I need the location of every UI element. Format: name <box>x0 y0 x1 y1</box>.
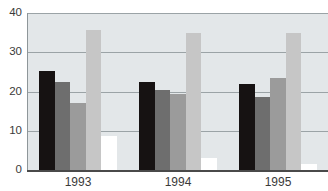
bar-1994-series-1 <box>139 82 155 170</box>
bar-1994-series-5 <box>201 158 217 170</box>
x-tick-label-1993: 1993 <box>28 175 128 189</box>
x-tick-label-1994: 1994 <box>128 175 228 189</box>
bar-1993-series-5 <box>101 136 117 170</box>
bar-series-container <box>28 13 328 170</box>
bar-1995-series-1 <box>239 84 255 170</box>
bar-1994-series-3 <box>170 94 186 170</box>
x-axis-line <box>27 170 328 172</box>
plot-area <box>28 13 328 170</box>
bar-1995-series-4 <box>286 33 302 170</box>
bar-1993-series-3 <box>70 103 86 170</box>
y-tick-label-20: 20 <box>0 86 22 97</box>
bar-1995-series-2 <box>255 97 271 170</box>
bar-chart: 010203040 199319941995 <box>0 0 328 191</box>
bar-1993-series-2 <box>55 82 71 170</box>
bar-1993-series-1 <box>39 71 55 170</box>
bar-1994-series-2 <box>155 90 171 170</box>
y-tick-label-0: 0 <box>0 164 22 175</box>
x-axis-tick-labels: 199319941995 <box>28 173 328 191</box>
y-tick-label-30: 30 <box>0 46 22 57</box>
chart-title-clipped <box>28 0 328 7</box>
y-tick-label-10: 10 <box>0 125 22 136</box>
bar-1994-series-4 <box>186 33 202 170</box>
y-tick-label-40: 40 <box>0 7 22 18</box>
bar-1993-series-4 <box>86 30 102 170</box>
x-tick-label-1995: 1995 <box>228 175 328 189</box>
y-axis-tick-labels: 010203040 <box>0 0 26 191</box>
bar-1995-series-3 <box>270 78 286 170</box>
